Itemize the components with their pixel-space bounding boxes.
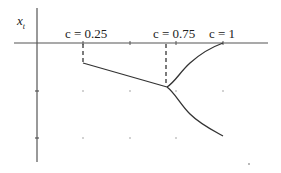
annotation-c075: c = 0.75 bbox=[153, 27, 195, 40]
lower-branch bbox=[167, 87, 223, 136]
diagram-canvas bbox=[0, 0, 281, 173]
bifurcation-diagram: xt c = 0.25 c = 0.75 c = 1 bbox=[0, 0, 281, 173]
stable-branch bbox=[83, 63, 167, 87]
annotation-c1: c = 1 bbox=[209, 27, 235, 40]
upper-branch bbox=[167, 43, 223, 87]
annotation-c025: c = 0.25 bbox=[65, 27, 107, 40]
y-axis-label: xt bbox=[17, 14, 25, 31]
grid-dots bbox=[82, 90, 250, 165]
